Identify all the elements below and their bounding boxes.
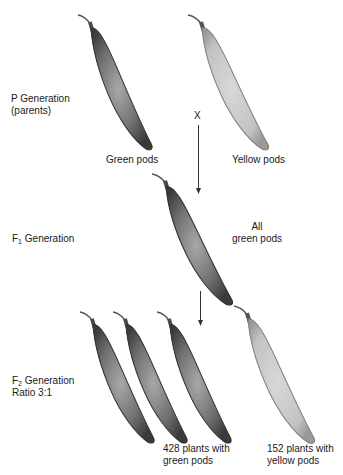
f2-yellow-line1: 152 plants with <box>267 443 334 455</box>
f2-ratio: Ratio 3:1 <box>12 387 74 399</box>
f2-yellow-caption: 152 plants with yellow pods <box>267 443 334 467</box>
f2-generation-label: F2 Generation Ratio 3:1 <box>12 375 74 399</box>
p-yellow-pod <box>188 15 269 150</box>
f1-caption: All green pods <box>226 221 288 245</box>
f2-green-line2: green pods <box>163 455 230 467</box>
f2-green-line1: 428 plants with <box>163 443 230 455</box>
p-green-pod <box>78 15 152 150</box>
f1-caption-line1: All <box>226 221 288 233</box>
p-generation-label: P Generation (parents) <box>11 93 70 117</box>
f1-green-pod <box>152 174 233 305</box>
f1-suffix: Generation <box>22 233 74 244</box>
f1-generation-label: F1 Generation <box>12 233 74 245</box>
cross-symbol: X <box>194 110 201 122</box>
p-generation-title: P Generation <box>11 93 70 105</box>
yellow-pods-caption: Yellow pods <box>232 154 285 166</box>
cross-arrow <box>196 125 201 194</box>
green-pods-caption: Green pods <box>106 154 158 166</box>
f2-yellow-line2: yellow pods <box>267 455 334 467</box>
f2-suffix: Generation <box>22 375 74 386</box>
p-generation-subtitle: (parents) <box>11 105 70 117</box>
f2-title: F2 Generation <box>12 375 74 387</box>
f2-yellow-pod <box>234 306 315 443</box>
f1-f2-arrow <box>198 291 203 326</box>
f2-green-caption: 428 plants with green pods <box>163 443 230 467</box>
f1-caption-line2: green pods <box>226 233 288 245</box>
